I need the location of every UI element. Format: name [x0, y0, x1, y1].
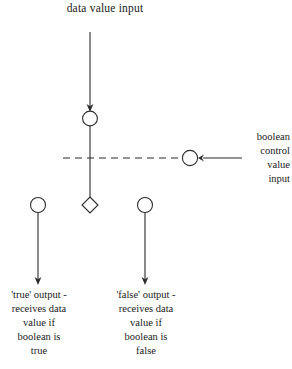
true-output-label: 'true' output - receives data value if b…: [0, 288, 78, 358]
data-node-circle: [83, 111, 98, 126]
diagram-canvas: data value input boolean control value i…: [0, 0, 292, 369]
false-output-label: 'false' output - receives data value if …: [104, 288, 188, 358]
true-output-arrow: [35, 213, 42, 285]
boolean-control-circle: [182, 150, 197, 165]
boolean-control-value-input-label: boolean control value input: [232, 130, 290, 186]
false-output-arrow: [142, 213, 149, 285]
false-output-circle: [138, 198, 153, 213]
decision-diamond: [82, 197, 98, 213]
data-value-input-label: data value input: [0, 1, 210, 15]
true-output-circle: [31, 198, 46, 213]
data-value-input-arrow: [87, 32, 94, 112]
